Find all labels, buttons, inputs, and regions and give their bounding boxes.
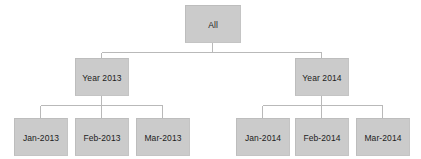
node-year-2013-label: Year 2013 bbox=[82, 73, 121, 82]
node-year-2013[interactable]: Year 2013 bbox=[75, 58, 129, 96]
node-mar-2014[interactable]: Mar-2014 bbox=[356, 118, 410, 156]
node-jan-2014-label: Jan-2014 bbox=[245, 133, 281, 142]
node-all-label: All bbox=[208, 20, 218, 29]
node-all[interactable]: All bbox=[185, 5, 241, 43]
node-mar-2014-label: Mar-2014 bbox=[364, 133, 401, 142]
node-year-2014-label: Year 2014 bbox=[302, 73, 341, 82]
node-jan-2014[interactable]: Jan-2014 bbox=[236, 118, 290, 156]
node-feb-2014-label: Feb-2014 bbox=[303, 133, 340, 142]
node-mar-2013[interactable]: Mar-2013 bbox=[136, 118, 190, 156]
node-mar-2013-label: Mar-2013 bbox=[144, 133, 181, 142]
node-feb-2014[interactable]: Feb-2014 bbox=[295, 118, 349, 156]
node-feb-2013-label: Feb-2013 bbox=[83, 133, 120, 142]
hierarchy-diagram: All Year 2013 Year 2014 Jan-2013 Feb-201… bbox=[0, 0, 421, 159]
node-feb-2013[interactable]: Feb-2013 bbox=[75, 118, 129, 156]
node-jan-2013[interactable]: Jan-2013 bbox=[14, 118, 68, 156]
node-year-2014[interactable]: Year 2014 bbox=[295, 58, 349, 96]
node-jan-2013-label: Jan-2013 bbox=[23, 133, 59, 142]
